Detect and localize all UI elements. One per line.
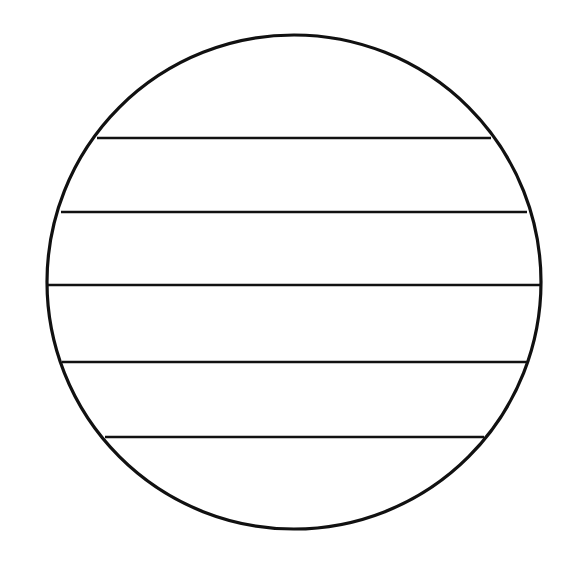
circle-chords-diagram xyxy=(0,0,578,569)
figure-canvas xyxy=(0,0,578,569)
